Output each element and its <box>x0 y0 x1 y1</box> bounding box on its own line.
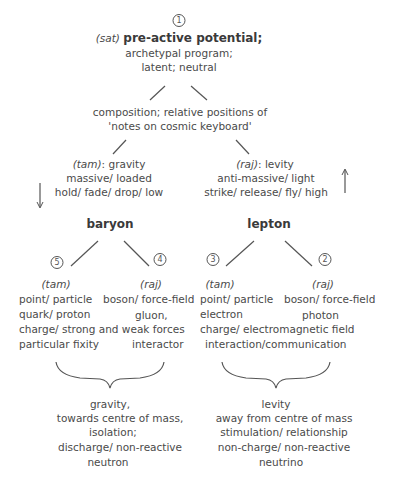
baryon-shared-line: charge/ strong and weak forces <box>19 323 185 336</box>
composition-line-1: composition; relative positions of <box>93 106 267 119</box>
right-branch-line-1: anti-massive/ light <box>217 172 314 185</box>
root-line-2: latent; neutral <box>141 61 216 74</box>
lepton-child-raj-line-1: boson/ force-field <box>284 293 375 306</box>
step-number-2: 2 <box>319 253 332 266</box>
lepton-node: lepton <box>247 218 290 231</box>
baryon-summary-5: neutron <box>87 456 128 469</box>
step-number-1: 1 <box>173 14 186 27</box>
right-branch-prefix: (raj) <box>236 158 258 170</box>
right-branch-title: (raj): levity <box>236 158 294 171</box>
root-line-1: archetypal program; <box>125 47 232 60</box>
composition-line-2: 'notes on cosmic keyboard' <box>108 120 251 133</box>
step-number-4: 4 <box>154 253 167 266</box>
left-branch-line-2: hold/ fade/ drop/ low <box>55 186 163 199</box>
baryon-child-tam-line-2: quark/ proton <box>19 308 90 321</box>
baryon-child-tam-line-1: point/ particle <box>19 293 92 306</box>
lepton-child-tam-prefix: (tam) <box>206 278 235 291</box>
baryon-child-tam-prefix: (tam) <box>42 278 71 291</box>
step-number-5: 5 <box>51 256 64 269</box>
baryon-bottom-right: interactor <box>132 338 184 351</box>
baryon-child-raj-line-1: boson/ force-field <box>103 293 194 306</box>
baryon-child-raj-line-2: gluon, <box>135 309 168 322</box>
lepton-shared-line-2: interaction/communication <box>205 338 347 351</box>
baryon-summary-2: towards centre of mass, <box>57 412 183 425</box>
baryon-child-raj-prefix: (raj) <box>140 278 162 291</box>
baryon-node: baryon <box>86 218 133 231</box>
lepton-summary-4: non-charge/ non-reactive <box>218 441 351 454</box>
lepton-shared-line-1: charge/ electromagnetic field <box>200 323 354 336</box>
lepton-summary-5: neutrino <box>259 456 303 469</box>
left-branch-title: (tam): gravity <box>73 158 146 171</box>
right-branch-label: : levity <box>258 158 294 170</box>
baryon-summary-3: isolation; <box>89 426 137 439</box>
baryon-summary-1: gravity, <box>90 398 130 411</box>
left-branch-label: : gravity <box>102 158 146 170</box>
step-number-3: 3 <box>207 253 220 266</box>
baryon-bottom-left: particular fixity <box>19 338 99 351</box>
lepton-child-tam-line-2: electron <box>200 308 243 321</box>
baryon-summary-4: discharge/ non-reactive <box>58 441 182 454</box>
lepton-summary-3: stimulation/ relationship <box>220 426 347 439</box>
lepton-child-tam-line-1: point/ particle <box>200 293 273 306</box>
root-heading: pre-active potential; <box>123 31 262 45</box>
root-title: (sat) pre-active potential; <box>96 32 263 45</box>
left-branch-line-1: massive/ loaded <box>66 172 152 185</box>
right-branch-line-2: strike/ release/ fly/ high <box>204 186 328 199</box>
lepton-child-raj-line-2: photon <box>302 309 339 322</box>
lepton-summary-2: away from centre of mass <box>216 412 353 425</box>
lepton-child-raj-prefix: (raj) <box>312 278 334 291</box>
left-branch-prefix: (tam) <box>73 158 102 170</box>
root-prefix: (sat) <box>96 32 120 44</box>
lepton-summary-1: levity <box>262 398 291 411</box>
